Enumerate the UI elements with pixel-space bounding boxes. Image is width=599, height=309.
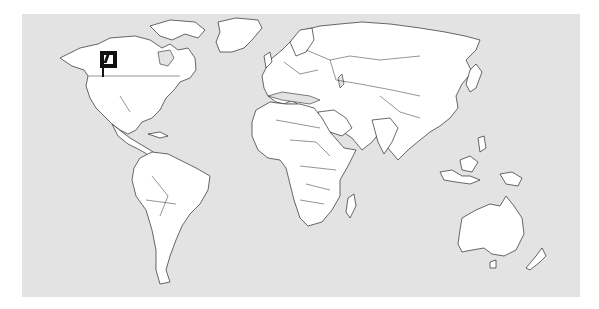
australia[interactable] [458, 196, 524, 256]
marker-label: Pacific Northwest, North America [100, 51, 101, 52]
greenland [216, 18, 262, 52]
borneo [460, 156, 478, 172]
south-america[interactable] [132, 152, 210, 284]
marker-pointer [102, 67, 104, 77]
philippines [478, 136, 486, 152]
caribbean-islands [148, 132, 168, 138]
new-guinea [500, 172, 522, 186]
tasmania [490, 260, 496, 268]
new-zealand [526, 248, 546, 270]
madagascar [346, 194, 356, 218]
canadian-arctic [150, 20, 205, 40]
indonesia [440, 170, 480, 184]
location-marker[interactable]: Pacific Northwest, North America [100, 51, 117, 68]
north-america[interactable] [60, 36, 196, 134]
